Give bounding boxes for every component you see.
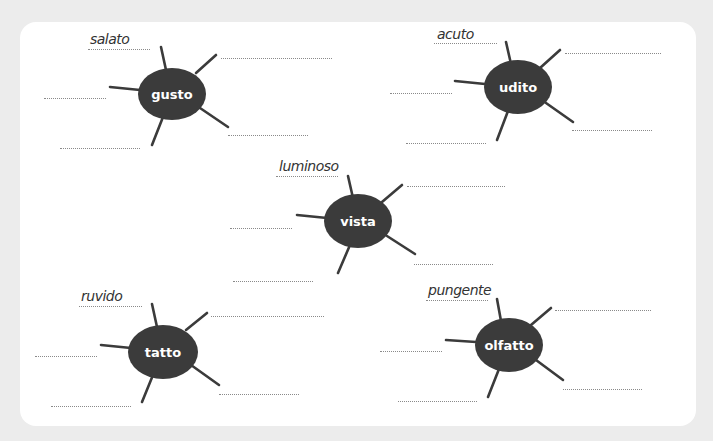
answer-blank-udito-3[interactable] xyxy=(390,93,452,94)
answer-blank-olfatto-5[interactable] xyxy=(398,401,477,402)
node-udito-label: udito xyxy=(499,80,537,95)
answer-blank-vista-3[interactable] xyxy=(230,228,292,229)
answer-blank-vista-2[interactable] xyxy=(407,186,505,187)
example-answer-gusto: salato xyxy=(90,31,129,47)
answer-blank-tatto-1 xyxy=(79,306,142,307)
answer-blank-gusto-2[interactable] xyxy=(221,58,332,59)
answer-blank-gusto-1 xyxy=(88,49,150,50)
answer-blank-olfatto-4[interactable] xyxy=(563,389,642,390)
answer-blank-gusto-3[interactable] xyxy=(44,98,106,99)
answer-blank-gusto-4[interactable] xyxy=(228,135,308,136)
example-answer-olfatto: pungente xyxy=(428,282,491,298)
answer-blank-olfatto-3[interactable] xyxy=(380,351,442,352)
node-vista-label: vista xyxy=(340,214,376,229)
answer-blank-udito-2[interactable] xyxy=(565,53,661,54)
example-answer-tatto: ruvido xyxy=(81,288,122,304)
answer-blank-vista-5[interactable] xyxy=(233,281,313,282)
node-gusto-label: gusto xyxy=(151,87,192,102)
answer-blank-tatto-2[interactable] xyxy=(211,316,324,317)
answer-blank-tatto-3[interactable] xyxy=(35,356,97,357)
example-answer-vista: luminoso xyxy=(279,158,339,174)
answer-blank-gusto-5[interactable] xyxy=(60,148,140,149)
answer-blank-olfatto-2[interactable] xyxy=(555,310,651,311)
node-olfatto-label: olfatto xyxy=(484,338,533,353)
answer-blank-vista-4[interactable] xyxy=(414,264,493,265)
answer-blank-tatto-5[interactable] xyxy=(51,406,131,407)
answer-blank-udito-1 xyxy=(434,43,497,44)
answer-blank-udito-4[interactable] xyxy=(572,130,652,131)
answer-blank-olfatto-1 xyxy=(426,300,488,301)
node-tatto-label: tatto xyxy=(145,345,181,360)
answer-blank-tatto-4[interactable] xyxy=(219,394,299,395)
example-answer-udito: acuto xyxy=(437,26,474,42)
answer-blank-vista-1 xyxy=(276,176,338,177)
answer-blank-udito-5[interactable] xyxy=(406,143,486,144)
